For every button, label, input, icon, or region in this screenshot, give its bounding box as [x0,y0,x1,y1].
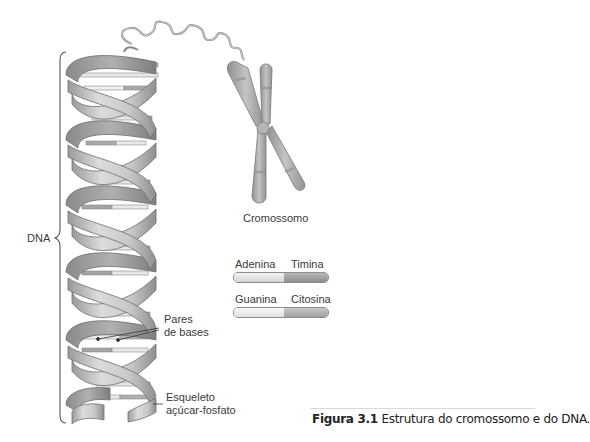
figure-caption: Figura 3.1 Estrutura do cromossomo e do … [312,412,590,426]
legend-guanine-cytosine-bar [233,307,329,318]
base-pairs-label-line2: de bases [164,326,209,339]
coiled-dna-strand [122,22,244,60]
legend-adenine-thymine-bar [233,272,329,283]
guanine-swatch [234,308,284,317]
backbone-label-line2: açúcar-fosfato [166,404,236,417]
coil-joint [124,47,138,52]
legend-guanine-label: Guanina [235,293,277,306]
legend-adenine-label: Adenina [235,258,275,271]
legend-cytosine-label: Citosina [291,293,331,306]
dna-label: DNA [27,232,50,245]
chromosome-illustration [227,62,305,204]
dna-brace [55,52,66,423]
caption-rule [310,408,535,409]
chromosome-label: Cromossomo [243,212,308,225]
backbone-label-line1: Esqueleto [166,391,215,404]
base-pairs-label-line1: Pares [164,313,193,326]
legend-thymine-label: Timina [291,258,324,271]
adenine-swatch [234,273,284,282]
thymine-swatch [284,273,328,282]
cytosine-swatch [284,308,328,317]
figure-number: Figura 3.1 [312,412,378,426]
figure-caption-text: Estrutura do cromossomo e do DNA. [378,412,590,426]
